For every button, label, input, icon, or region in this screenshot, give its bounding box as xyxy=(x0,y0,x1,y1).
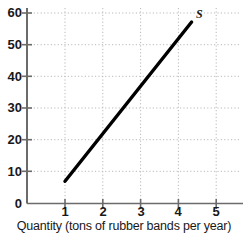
ytick-label-40: 40 xyxy=(0,70,22,83)
horizontal-gridlines xyxy=(27,13,240,171)
ytick-label-10: 10 xyxy=(0,165,22,178)
supply-curve-label: S xyxy=(196,8,203,20)
ytick-label-0: 0 xyxy=(0,197,22,210)
ytick-label-50: 50 xyxy=(0,38,22,51)
vertical-gridlines xyxy=(65,8,216,203)
x-axis-title: Quantity (tons of rubber bands per year) xyxy=(0,219,248,233)
xtick-label-1: 1 xyxy=(55,205,75,218)
ytick-label-20: 20 xyxy=(0,133,22,146)
chart-plot-area xyxy=(0,0,248,237)
supply-curve-chart: 60 50 40 30 20 10 0 1 2 3 4 5 S Quantity… xyxy=(0,0,248,237)
xtick-label-4: 4 xyxy=(168,205,188,218)
xtick-label-2: 2 xyxy=(93,205,113,218)
xtick-label-5: 5 xyxy=(206,205,226,218)
ytick-label-30: 30 xyxy=(0,101,22,114)
xtick-label-3: 3 xyxy=(131,205,151,218)
supply-curve-line xyxy=(65,22,192,181)
ytick-label-60: 60 xyxy=(0,6,22,19)
